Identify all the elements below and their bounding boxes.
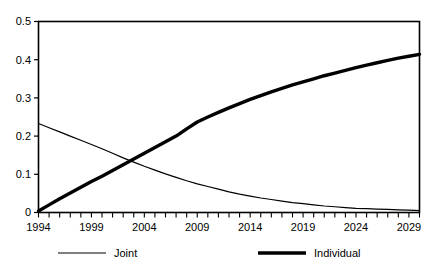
- x-axis-tick-label: 2004: [132, 221, 156, 233]
- y-axis-tick-label: 0.4: [16, 54, 31, 66]
- x-axis-tick-label: 2029: [397, 221, 421, 233]
- x-axis-tick-label: 1994: [26, 221, 50, 233]
- legend-item-joint: Joint: [58, 247, 137, 259]
- series-line-joint: [39, 123, 420, 210]
- plot-frame: [39, 22, 420, 213]
- series-line-individual: [39, 54, 420, 211]
- x-axis-tick-label: 1999: [79, 221, 103, 233]
- y-axis-tick-label: 0.2: [16, 130, 31, 142]
- y-axis-tick-label: 0.3: [16, 92, 31, 104]
- legend-label: Joint: [114, 247, 137, 259]
- x-axis-tick-label: 2024: [344, 221, 368, 233]
- chart-figure: 00.10.20.30.40.5199419992004200920142019…: [0, 0, 431, 268]
- line-chart: 00.10.20.30.40.5199419992004200920142019…: [0, 0, 431, 268]
- x-axis-tick-label: 2019: [291, 221, 315, 233]
- legend-item-individual: Individual: [258, 247, 360, 259]
- x-axis-tick-label: 2009: [185, 221, 209, 233]
- legend-label: Individual: [314, 247, 360, 259]
- x-axis-tick-label: 2014: [238, 221, 262, 233]
- y-axis-tick-label: 0.5: [16, 15, 31, 27]
- y-axis-tick-label: 0.1: [16, 168, 31, 180]
- y-axis-tick-label: 0: [25, 206, 31, 218]
